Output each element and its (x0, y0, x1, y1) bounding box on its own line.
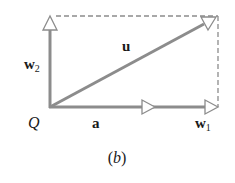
label-u: u (122, 38, 130, 54)
figure-caption: (b) (108, 149, 127, 167)
vector-w2-arrowhead-icon (43, 16, 57, 30)
label-w1: w1 (195, 115, 211, 133)
label-a: a (92, 115, 100, 131)
vector-w1-arrowhead-icon (205, 100, 218, 114)
vector-u-shaft (50, 24, 204, 107)
label-w2: w2 (24, 56, 40, 74)
vector-decomposition-diagram: w2 u Q a w1 (b) (0, 0, 235, 183)
vector-a-arrowhead-icon (142, 100, 155, 114)
label-origin-q: Q (28, 114, 40, 131)
